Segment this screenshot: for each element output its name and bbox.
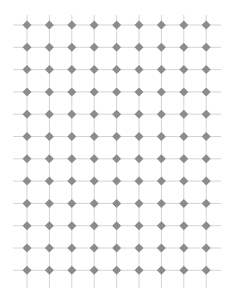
diamond-node-icon	[202, 221, 211, 230]
diamond-node-icon	[90, 43, 99, 52]
diamond-node-icon	[112, 199, 121, 208]
diamond-node-icon	[67, 154, 76, 163]
diamond-node-icon	[135, 266, 144, 275]
diamond-node-icon	[23, 21, 32, 30]
diamond-node-icon	[157, 177, 166, 186]
diamond-node-icon	[112, 21, 121, 30]
diamond-node-icon	[45, 87, 54, 96]
diamond-node-icon	[202, 21, 211, 30]
diamond-node-icon	[179, 221, 188, 230]
diamond-node-icon	[23, 221, 32, 230]
diamond-node-icon	[23, 266, 32, 275]
diamond-node-icon	[135, 244, 144, 253]
diamond-node-icon	[23, 87, 32, 96]
diamond-node-icon	[202, 87, 211, 96]
diamond-node-icon	[179, 132, 188, 141]
diamond-node-icon	[179, 154, 188, 163]
diamond-node-icon	[45, 177, 54, 186]
diamond-node-icon	[90, 21, 99, 30]
diamond-node-icon	[157, 132, 166, 141]
diamond-node-icon	[23, 154, 32, 163]
diamond-node-icon	[157, 154, 166, 163]
diamond-node-icon	[45, 21, 54, 30]
diamond-node-icon	[157, 21, 166, 30]
diamond-node-icon	[157, 266, 166, 275]
diamond-node-icon	[157, 199, 166, 208]
diamond-node-icon	[23, 43, 32, 52]
diamond-node-icon	[202, 177, 211, 186]
diamond-node-icon	[90, 154, 99, 163]
diamond-node-icon	[179, 177, 188, 186]
diamond-node-icon	[157, 87, 166, 96]
diamond-node-icon	[90, 199, 99, 208]
diamond-node-icon	[135, 87, 144, 96]
diamond-node-icon	[202, 65, 211, 74]
diamond-node-icon	[112, 87, 121, 96]
diamond-node-icon	[202, 132, 211, 141]
diamond-node-icon	[45, 132, 54, 141]
diamond-node-icon	[112, 110, 121, 119]
diamond-node-icon	[179, 87, 188, 96]
diamond-node-icon	[23, 132, 32, 141]
diamond-node-icon	[23, 244, 32, 253]
diamond-node-icon	[112, 244, 121, 253]
diamond-node-icon	[23, 177, 32, 186]
dot-grid-diagram	[0, 0, 235, 303]
diamond-node-icon	[202, 154, 211, 163]
diamond-node-icon	[67, 21, 76, 30]
diamond-node-icon	[179, 244, 188, 253]
diamond-node-icon	[202, 110, 211, 119]
diamond-node-icon	[90, 87, 99, 96]
diamond-node-icon	[179, 43, 188, 52]
diamond-node-icon	[45, 43, 54, 52]
diamond-node-icon	[112, 266, 121, 275]
diamond-node-icon	[45, 154, 54, 163]
diamond-node-icon	[112, 65, 121, 74]
diamond-node-icon	[67, 87, 76, 96]
diamond-node-icon	[45, 199, 54, 208]
diamond-node-icon	[202, 43, 211, 52]
diamond-node-icon	[23, 199, 32, 208]
diamond-node-icon	[45, 266, 54, 275]
diamond-node-icon	[135, 110, 144, 119]
diamond-node-icon	[90, 221, 99, 230]
diamond-node-icon	[135, 221, 144, 230]
diamond-node-icon	[67, 244, 76, 253]
diamond-node-icon	[135, 65, 144, 74]
diamond-node-icon	[202, 266, 211, 275]
diamond-node-icon	[23, 110, 32, 119]
diamond-node-icon	[67, 110, 76, 119]
diamond-node-icon	[67, 266, 76, 275]
diamond-node-icon	[179, 21, 188, 30]
diamond-node-icon	[90, 132, 99, 141]
diamond-node-icon	[157, 221, 166, 230]
diamond-node-icon	[202, 199, 211, 208]
diamond-node-icon	[135, 177, 144, 186]
diamond-node-icon	[90, 244, 99, 253]
diamond-node-icon	[112, 177, 121, 186]
diamond-node-icon	[67, 43, 76, 52]
diamond-node-icon	[112, 154, 121, 163]
diamond-node-icon	[179, 266, 188, 275]
diamond-node-icon	[135, 154, 144, 163]
diamond-node-icon	[157, 244, 166, 253]
diamond-node-icon	[135, 199, 144, 208]
diamond-node-icon	[135, 21, 144, 30]
diamond-node-icon	[112, 43, 121, 52]
diamond-node-icon	[90, 65, 99, 74]
diamond-node-icon	[45, 65, 54, 74]
diamond-node-icon	[157, 43, 166, 52]
diamond-node-icon	[45, 244, 54, 253]
diamond-node-icon	[67, 132, 76, 141]
diamond-node-icon	[157, 110, 166, 119]
diamond-node-icon	[90, 110, 99, 119]
diamond-node-icon	[45, 221, 54, 230]
diamond-node-icon	[179, 110, 188, 119]
diamond-node-icon	[67, 221, 76, 230]
diamond-node-icon	[67, 177, 76, 186]
diamond-node-icon	[112, 221, 121, 230]
diamond-node-icon	[112, 132, 121, 141]
diamond-node-icon	[157, 65, 166, 74]
diamond-node-icon	[179, 65, 188, 74]
diamond-node-icon	[90, 266, 99, 275]
